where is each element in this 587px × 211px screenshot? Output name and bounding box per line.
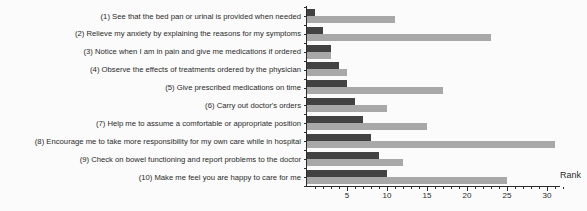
x-tick-label: 20 [463,191,472,200]
category-label: (6) Carry out doctor's orders [0,98,301,114]
bar-row: (6) Carry out doctor's orders [0,97,587,115]
x-minor-tick [563,187,564,189]
x-major-tick [547,187,548,191]
rank-bar-chart: (1) See that the bed pan or urinal is pr… [0,0,587,211]
category-label: (1) See that the bed pan or urinal is pr… [0,8,301,24]
category-label: (4) Observe the effects of treatments or… [0,62,301,78]
x-minor-tick [379,187,380,189]
x-tick-label: 15 [423,191,432,200]
x-minor-tick [395,187,396,189]
x-minor-tick [371,187,372,189]
dark-bar [307,80,347,87]
x-tick-label: 10 [383,191,392,200]
x-minor-tick [323,187,324,189]
dark-bar [307,152,379,159]
x-minor-tick [531,187,532,189]
light-bar [307,177,507,184]
x-minor-tick [419,187,420,189]
x-minor-tick [411,187,412,189]
x-minor-tick [443,187,444,189]
x-minor-tick [339,187,340,189]
light-bar [307,123,427,130]
bar-row: (8) Encourage me to take more responsibi… [0,132,587,150]
category-label: (2) Relieve my anxiety by explaining the… [0,26,301,42]
light-bar [307,34,491,41]
light-bar [307,141,555,148]
light-bar [307,52,331,59]
dark-bar [307,27,323,34]
x-tick-label: 5 [345,191,349,200]
dark-bar [307,45,331,52]
x-minor-tick [491,187,492,189]
x-minor-tick [403,187,404,189]
bar-row: (10) Make me feel you are happy to care … [0,168,587,186]
x-minor-tick [523,187,524,189]
x-axis-line [306,186,560,187]
x-major-tick [387,187,388,191]
x-minor-tick [555,187,556,189]
category-label: (8) Encourage me to take more responsibi… [0,133,301,149]
x-minor-tick [363,187,364,189]
x-minor-tick [435,187,436,189]
x-major-tick [507,187,508,191]
x-axis-title: Rank [560,170,581,180]
x-tick-label: 30 [543,191,552,200]
x-major-tick [427,187,428,191]
category-label: (5) Give prescribed medications on time [0,80,301,96]
bar-row: (5) Give prescribed medications on time [0,79,587,97]
x-minor-tick [539,187,540,189]
bar-row: (1) See that the bed pan or urinal is pr… [0,7,587,25]
x-major-tick [347,187,348,191]
x-minor-tick [355,187,356,189]
category-label: (3) Notice when I am in pain and give me… [0,44,301,60]
light-bar [307,105,387,112]
dark-bar [307,116,363,123]
bar-row: (4) Observe the effects of treatments or… [0,61,587,79]
light-bar [307,87,443,94]
category-label: (9) Check on bowel functioning and repor… [0,151,301,167]
dark-bar [307,134,371,141]
bar-row: (7) Help me to assume a comfortable or a… [0,114,587,132]
x-minor-tick [451,187,452,189]
category-label: (7) Help me to assume a comfortable or a… [0,115,301,131]
dark-bar [307,62,339,69]
bar-row: (2) Relieve my anxiety by explaining the… [0,25,587,43]
x-minor-tick [499,187,500,189]
x-minor-tick [315,187,316,189]
x-minor-tick [475,187,476,189]
category-label: (10) Make me feel you are happy to care … [0,169,301,185]
dark-bar [307,9,315,16]
light-bar [307,69,347,76]
x-minor-tick [483,187,484,189]
light-bar [307,159,403,166]
x-minor-tick [515,187,516,189]
x-tick-label: 25 [503,191,512,200]
dark-bar [307,98,355,105]
x-minor-tick [459,187,460,189]
bar-row: (3) Notice when I am in pain and give me… [0,43,587,61]
light-bar [307,16,395,23]
y-axis-line [306,6,307,187]
x-minor-tick [331,187,332,189]
dark-bar [307,170,387,177]
x-major-tick [467,187,468,191]
bar-row: (9) Check on bowel functioning and repor… [0,150,587,168]
